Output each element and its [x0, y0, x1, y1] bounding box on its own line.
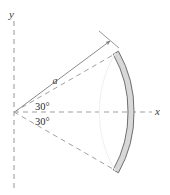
- angle-label-lower: 30°: [35, 116, 50, 127]
- angle-label-upper: 30°: [35, 101, 50, 112]
- y-axis-label: y: [8, 8, 14, 20]
- x-axis-label: x: [154, 105, 160, 117]
- radius-label: a: [53, 75, 58, 86]
- diagram-background: [0, 0, 170, 195]
- figure-container: y x a 30° 30°: [0, 0, 170, 195]
- arc-sector-diagram: y x a 30° 30°: [0, 0, 170, 195]
